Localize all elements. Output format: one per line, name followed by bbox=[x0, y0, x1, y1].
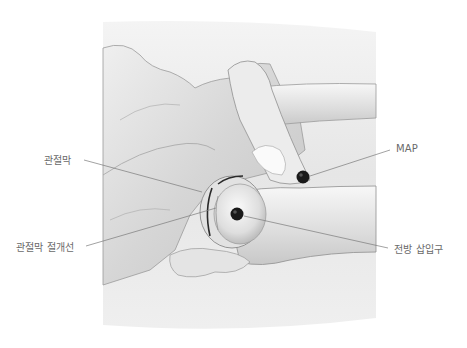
map-portal-dot bbox=[297, 171, 310, 184]
label-map: MAP bbox=[396, 143, 418, 154]
hip-joint-illustration: 관절막 관절막 절개선 MAP 전방 삽입구 bbox=[0, 0, 467, 348]
label-capsulotomy-line: 관절막 절개선 bbox=[16, 239, 75, 254]
anatomy-drawing bbox=[0, 0, 467, 348]
anterior-portal-dot bbox=[231, 208, 244, 221]
label-capsule: 관절막 bbox=[44, 152, 72, 167]
label-anterior-portal: 전방 삽입구 bbox=[394, 241, 443, 256]
